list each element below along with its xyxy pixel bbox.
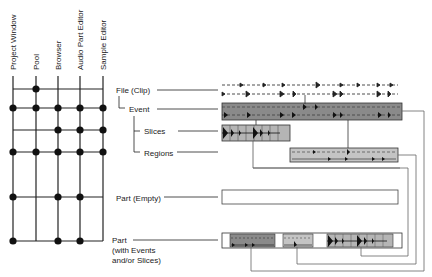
- column-labels: Project Window Pool Browser Audio Part E…: [9, 9, 108, 70]
- row-label-slices: Slices: [144, 127, 165, 136]
- col-label-sample-editor: Sample Editor: [99, 19, 108, 70]
- row-label-part: Part: [112, 236, 127, 245]
- part-empty-bar: [222, 190, 398, 204]
- row-label-part-line2: (with Events: [112, 246, 156, 255]
- regions-bar: [290, 148, 398, 162]
- row-label-part-line3: and/or Slices): [112, 256, 161, 265]
- row-label-regions: Regions: [144, 149, 173, 158]
- slices-bar: [222, 125, 290, 141]
- row-label-part-empty: Part (Empty): [116, 194, 161, 203]
- col-label-audio-part-editor: Audio Part Editor: [76, 9, 85, 70]
- file-clip-waveform: [222, 82, 398, 97]
- dot: [32, 85, 39, 92]
- row-label-file-clip: File (Clip): [116, 86, 151, 95]
- row-label-event: Event: [129, 105, 150, 114]
- part-with-events-bar: [222, 233, 402, 248]
- col-label-browser: Browser: [54, 40, 63, 70]
- row-labels: File (Clip) Event Slices Regions Part (E…: [112, 86, 218, 265]
- col-label-pool: Pool: [32, 54, 41, 70]
- matrix-grid: [13, 76, 103, 241]
- col-label-project-window: Project Window: [9, 14, 18, 70]
- event-bar: [222, 103, 402, 120]
- diagram: Project Window Pool Browser Audio Part E…: [0, 0, 432, 277]
